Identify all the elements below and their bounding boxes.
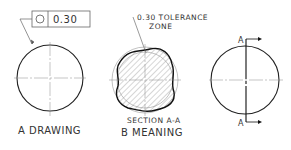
tolerance-zone-label-line1: 0.30 TOLERANCE (137, 13, 208, 22)
cut-label-bottom: A (238, 119, 244, 128)
caption-b: B MEANING (121, 127, 183, 138)
caption-a: A DRAWING (18, 125, 81, 136)
tolerance-zone-label-line2: ZONE (149, 22, 172, 31)
view-a-drawing: 0.30 A DRAWING (14, 11, 90, 136)
view-b-meaning: 0.30 TOLERANCE ZONE SECTION A-A B MEANIN… (109, 13, 208, 138)
circularity-symbol-icon (36, 15, 44, 23)
cut-label-top: A (238, 36, 244, 45)
feature-control-frame: 0.30 (32, 11, 90, 27)
tolerance-value: 0.30 (53, 14, 77, 25)
center-lines (14, 42, 86, 116)
section-label: SECTION A-A (127, 116, 181, 125)
circularity-tolerance-diagram: 0.30 A DRAWING 0.30 TOLERANCE ZONE SECTI… (0, 0, 291, 150)
view-c-section-cut: A A (209, 36, 283, 128)
